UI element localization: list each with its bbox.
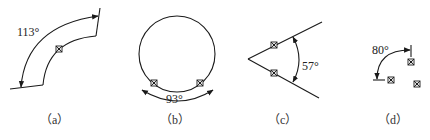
circle <box>139 16 215 92</box>
figure-b <box>139 16 215 101</box>
angle-label-d: 80° <box>372 44 389 56</box>
diagram-canvas: 113° 93° 57° 80° （a） （b） （c） （d） <box>0 0 430 140</box>
angle-label-a: 113° <box>17 26 39 38</box>
caption-d: （d） <box>378 114 408 126</box>
boxed-x-marker-icon <box>408 59 414 65</box>
caption-c: （c） <box>268 114 297 126</box>
tick-top <box>96 8 100 36</box>
boxed-x-marker-icon <box>197 80 203 86</box>
angle-label-c: 57° <box>302 60 319 72</box>
boxed-x-marker-icon <box>388 77 394 83</box>
boxed-x-marker-icon <box>271 42 277 48</box>
inner-arc <box>43 36 96 85</box>
upper-line <box>248 22 322 59</box>
boxed-x-marker-icon <box>271 70 277 76</box>
caption-b: （b） <box>160 114 190 126</box>
dimension-arc <box>293 37 299 82</box>
boxed-x-marker-icon <box>56 46 62 52</box>
boxed-x-marker-icon <box>414 81 420 87</box>
boxed-x-marker-icon <box>151 80 157 86</box>
angle-label-b: 93° <box>166 93 183 105</box>
caption-a: （a） <box>40 114 69 126</box>
figure-a <box>10 8 100 89</box>
baseline <box>10 85 43 89</box>
